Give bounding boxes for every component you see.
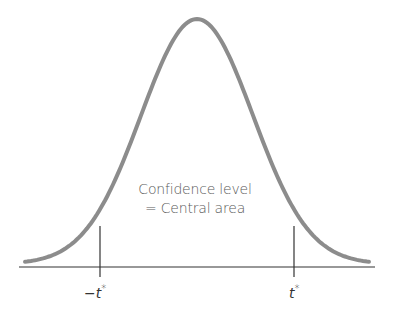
annotation-line-1: Confidence level [131, 180, 259, 199]
right-tick-label: t* [289, 283, 300, 301]
central-area-annotation: Confidence level = Central area [131, 180, 259, 218]
left-tick-label: −t* [84, 283, 106, 301]
t-distribution-diagram [0, 0, 393, 312]
left-tick-text: −t [84, 285, 101, 301]
right-tick-star: * [295, 283, 300, 294]
density-curve [25, 19, 369, 262]
annotation-line-2: = Central area [131, 199, 259, 218]
left-tick-star: * [101, 283, 106, 294]
